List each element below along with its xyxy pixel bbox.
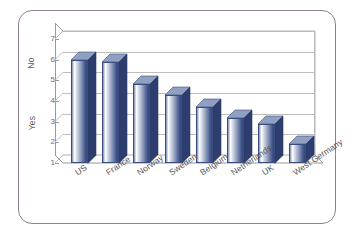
bar: [196, 107, 213, 163]
bar: [165, 95, 182, 163]
bar-front-face: [227, 118, 244, 163]
bar-front-face: [102, 62, 119, 163]
bar-chart: 7654321 Yes No: [19, 11, 337, 225]
bar-front-face: [71, 60, 88, 163]
bar: [227, 118, 244, 163]
screenshot-root: 7654321 Yes No: [0, 0, 353, 237]
bar: [71, 60, 88, 163]
chart-frame: 7654321 Yes No: [18, 10, 336, 224]
bar-front-face: [165, 95, 182, 163]
bar: [102, 62, 119, 163]
bar: [133, 84, 150, 163]
bar-front-face: [133, 84, 150, 163]
bar-front-face: [196, 107, 213, 163]
bar-series: [19, 11, 337, 225]
